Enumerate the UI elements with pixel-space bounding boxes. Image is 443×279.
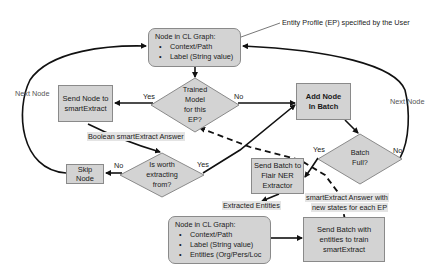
skip-node-box: Skip Node xyxy=(66,164,104,184)
node-item-label: Label (String value) xyxy=(159,52,234,62)
entity-profile-note: Entity Profile (EP) specified by the Use… xyxy=(282,18,410,27)
add-node-in-batch-box: Add Node In Batch xyxy=(296,83,351,120)
node-item-entities: Entities (Org/Pers/Loc xyxy=(179,250,264,260)
no-label-batch: No xyxy=(393,146,402,155)
no-label-trained: No xyxy=(234,92,243,101)
node-item-context: Context/Path xyxy=(159,42,234,52)
trained-model-decision-text: Trained Model for this EP? xyxy=(168,82,222,128)
yes-label-trained: Yes xyxy=(143,92,155,101)
node-title: Node in CL Graph: xyxy=(175,220,264,230)
yes-label-worth: Yes xyxy=(197,160,209,169)
node-item-label: Label (String value) xyxy=(179,240,264,250)
batch-full-decision-text: Batch Full? xyxy=(335,143,385,173)
send-batch-train-box: Send Batch with entities to train smartE… xyxy=(303,217,385,262)
extracted-entities-label: Extracted Entities xyxy=(222,201,281,210)
send-batch-to-flair-box: Send Batch to Flair NER Extractor xyxy=(251,158,304,194)
send-node-to-smartextract-box: Send Node to smartExtract xyxy=(58,85,113,122)
yes-label-batch: Yes xyxy=(313,145,325,154)
boolean-answer-label: Boolean smartExtract Answer xyxy=(87,132,185,141)
node-item-context: Context/Path xyxy=(179,230,264,240)
next-node-label-left: Next Node xyxy=(15,89,49,98)
node-in-cl-graph-bottom: Node in CL Graph: Context/Path Label (St… xyxy=(168,216,271,264)
next-node-label-right: Next Node xyxy=(390,97,424,106)
node-title: Node in CL Graph: xyxy=(155,32,234,42)
smartextract-answer-label-line1: smartExtract Answer with xyxy=(305,193,389,202)
no-label-worth: No xyxy=(114,161,123,170)
node-in-cl-graph-top: Node in CL Graph: Context/Path Label (St… xyxy=(148,28,241,67)
smartextract-answer-label-line2: new states for each EP xyxy=(311,203,388,212)
worth-extracting-decision-text: Is worth extracting from? xyxy=(138,157,186,193)
